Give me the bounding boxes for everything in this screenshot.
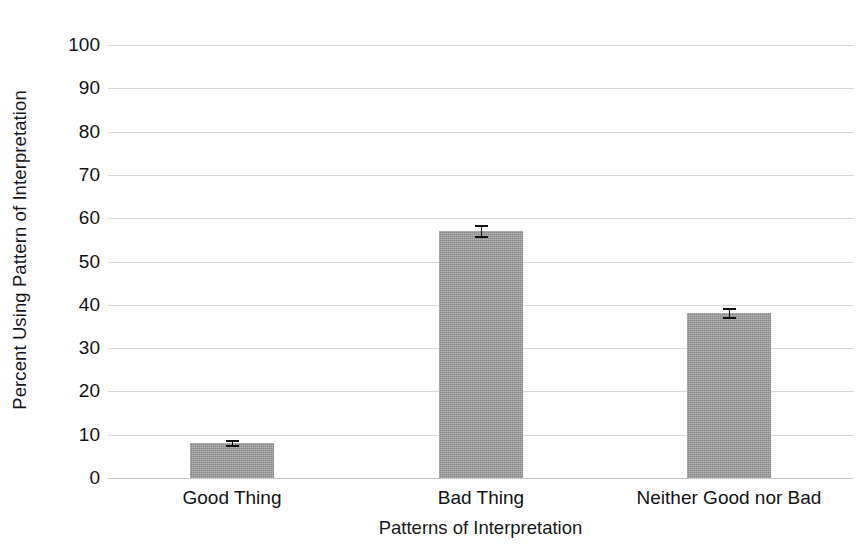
y-axis-tick-label: 90 xyxy=(14,78,100,97)
y-axis-tick-label: 10 xyxy=(14,425,100,444)
gridline xyxy=(108,45,853,46)
y-axis-tick-label: 60 xyxy=(14,208,100,227)
bar xyxy=(439,231,523,478)
x-axis-title: Patterns of Interpretation xyxy=(108,517,853,539)
x-axis-tick-label: Neither Good nor Bad xyxy=(637,487,822,509)
y-axis-tick-label: 20 xyxy=(14,381,100,400)
x-axis-tick-label: Bad Thing xyxy=(438,487,524,509)
y-axis-tick-label: 100 xyxy=(14,35,100,54)
bar xyxy=(190,443,274,478)
error-bar xyxy=(232,440,233,447)
y-axis-tick-label: 30 xyxy=(14,338,100,357)
y-axis-tick-labels: 0102030405060708090100 xyxy=(0,45,100,478)
gridline xyxy=(108,478,853,479)
plot-area xyxy=(108,45,853,478)
error-bar xyxy=(729,308,730,319)
y-axis-tick-label: 0 xyxy=(14,468,100,487)
error-bar xyxy=(481,225,482,238)
x-axis-tick-label: Good Thing xyxy=(183,487,282,509)
y-axis-tick-label: 50 xyxy=(14,252,100,271)
bar xyxy=(687,313,771,478)
x-axis-tick-labels: Good ThingBad ThingNeither Good nor Bad xyxy=(108,487,853,515)
gridline xyxy=(108,88,853,89)
gridline xyxy=(108,218,853,219)
gridline xyxy=(108,175,853,176)
gridline xyxy=(108,132,853,133)
y-axis-tick-label: 40 xyxy=(14,295,100,314)
x-axis-title-label: Patterns of Interpretation xyxy=(379,517,583,538)
bar-chart-figure: Percent Using Pattern of Interpretation … xyxy=(0,0,865,560)
y-axis-tick-label: 80 xyxy=(14,122,100,141)
y-axis-tick-label: 70 xyxy=(14,165,100,184)
